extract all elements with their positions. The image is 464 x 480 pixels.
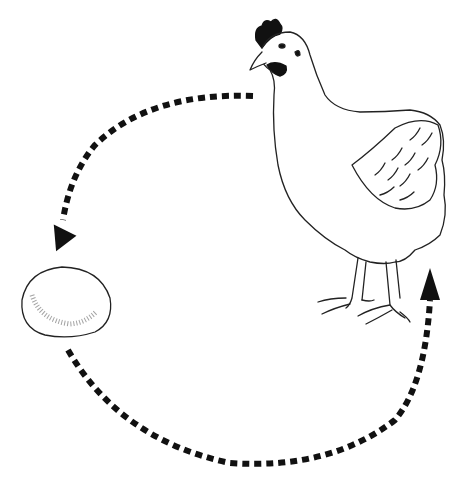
arrow-egg-to-hen (68, 268, 440, 464)
arrow-hen-to-egg (50, 96, 253, 254)
hen-icon (250, 19, 445, 324)
egg-icon (22, 267, 111, 337)
life-cycle-diagram (0, 0, 464, 480)
